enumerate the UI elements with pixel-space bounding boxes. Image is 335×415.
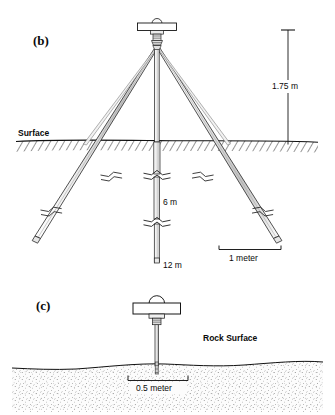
short-rod-c xyxy=(155,324,158,374)
break-mark-right-upper xyxy=(192,172,214,181)
antenna-stem-c xyxy=(153,318,162,325)
antenna-collar-c xyxy=(149,314,165,318)
scale-bar-1-meter xyxy=(219,246,281,250)
center-rod-12m-label: 12 m xyxy=(163,260,182,270)
antenna-plate-b xyxy=(138,23,177,31)
tripod-apex-clamp xyxy=(152,41,163,50)
panel-b-label: (b) xyxy=(33,33,49,48)
surface-label: Surface xyxy=(18,128,49,138)
antenna-dome-c xyxy=(149,296,165,304)
antenna-stem-b xyxy=(153,34,161,40)
antenna-b xyxy=(138,19,177,41)
panel-c: (c) Rock Surface xyxy=(12,296,323,412)
panel-b: (b) Surface xyxy=(16,19,318,271)
antenna-base-b xyxy=(151,31,164,35)
panel-c-label: (c) xyxy=(36,298,50,313)
antenna-c xyxy=(133,296,181,325)
center-rod-6m-label: 6 m xyxy=(163,197,177,207)
rock-surface-label: Rock Surface xyxy=(203,333,258,343)
scale-bar-1-meter-label: 1 meter xyxy=(229,253,258,263)
antenna-plate-c xyxy=(133,303,181,314)
scale-bar-0-5-meter-label: 0.5 meter xyxy=(136,383,172,393)
height-dimension-label: 1.75 m xyxy=(272,81,298,91)
center-rod xyxy=(144,46,171,263)
monument-figure: (b) Surface xyxy=(0,0,335,415)
ground-surface-hatch xyxy=(16,140,318,153)
